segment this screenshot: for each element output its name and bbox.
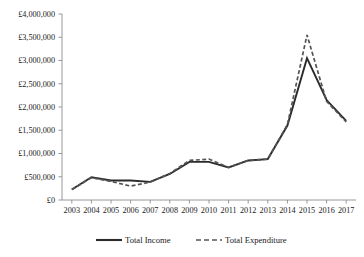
y-axis-tick-label: £3,500,000: [18, 33, 55, 42]
x-axis-tick-labels: 2003200420052006200720082009201020112012…: [64, 206, 355, 215]
y-axis-tick-label: £4,000,000: [18, 10, 55, 19]
chart-legend: Total IncomeTotal Expenditure: [96, 235, 287, 245]
line-chart: £0£500,000£1,000,000£1,500,000£2,000,000…: [0, 0, 364, 257]
x-axis-tick-label: 2013: [260, 206, 276, 215]
x-axis-tick-label: 2010: [201, 206, 217, 215]
data-series-group: [72, 35, 346, 190]
x-axis-tick-label: 2003: [64, 206, 80, 215]
series-line-total-expenditure: [72, 35, 346, 190]
x-axis-tick-label: 2016: [318, 206, 334, 215]
x-axis-tick-label: 2007: [142, 206, 158, 215]
legend-label-total-expenditure: Total Expenditure: [225, 235, 287, 245]
series-line-total-income: [72, 58, 346, 189]
y-axis: £0£500,000£1,000,000£1,500,000£2,000,000…: [18, 10, 62, 205]
y-axis-tick-label: £1,000,000: [18, 149, 55, 158]
legend-label-total-income: Total Income: [125, 235, 171, 245]
x-axis-ticks: [72, 200, 346, 204]
x-axis-tick-label: 2011: [221, 206, 237, 215]
x-axis-tick-label: 2009: [181, 206, 197, 215]
y-axis-ticks: [59, 14, 63, 200]
y-axis-tick-label: £2,000,000: [18, 103, 55, 112]
x-axis-tick-label: 2015: [299, 206, 315, 215]
y-axis-tick-label: £500,000: [24, 173, 55, 182]
x-axis-tick-label: 2005: [103, 206, 119, 215]
x-axis-tick-label: 2012: [240, 206, 256, 215]
x-axis-tick-label: 2017: [338, 206, 354, 215]
x-axis-tick-label: 2004: [83, 206, 99, 215]
chart-canvas: £0£500,000£1,000,000£1,500,000£2,000,000…: [0, 0, 364, 257]
y-axis-tick-label: £0: [47, 196, 55, 205]
x-axis-tick-label: 2006: [122, 206, 138, 215]
y-axis-tick-label: £2,500,000: [18, 80, 55, 89]
y-axis-tick-label: £3,000,000: [18, 56, 55, 65]
x-axis: 2003200420052006200720082009201020112012…: [62, 200, 356, 215]
y-axis-tick-labels: £0£500,000£1,000,000£1,500,000£2,000,000…: [18, 10, 55, 205]
x-axis-tick-label: 2014: [279, 206, 295, 215]
y-axis-tick-label: £1,500,000: [18, 126, 55, 135]
x-axis-tick-label: 2008: [162, 206, 178, 215]
